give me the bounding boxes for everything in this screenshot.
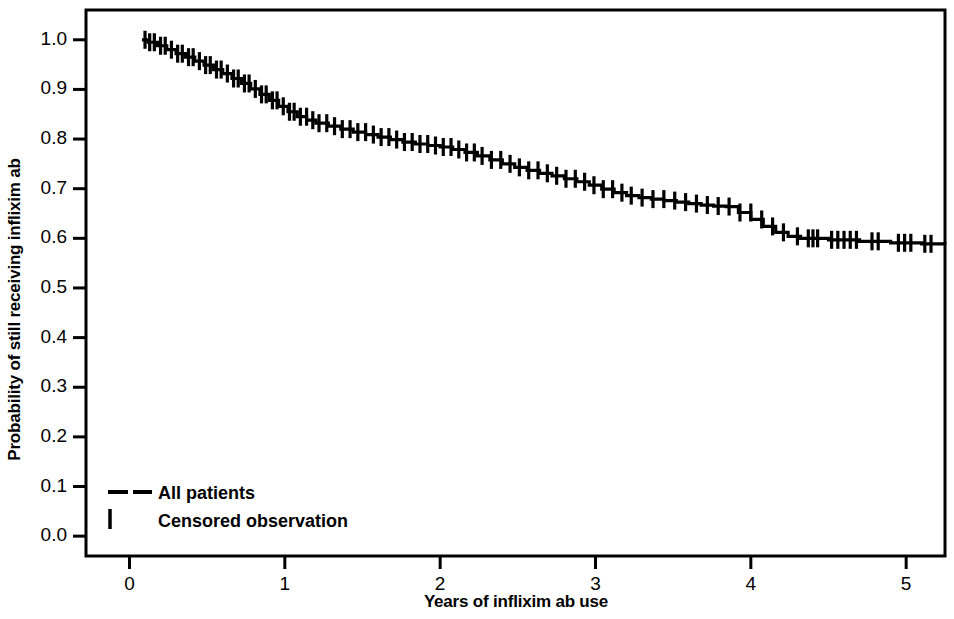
x-axis-ticks [129,556,906,569]
x-axis-title: Years of inflixim ab use [86,592,946,612]
y-tick-label-1: 0.1 [17,475,67,497]
x-tick-label-5: 5 [886,573,926,595]
y-tick-label-5: 0.5 [17,276,67,298]
x-tick-label-3: 3 [575,573,615,595]
y-axis-ticks [73,40,86,536]
y-tick-label-2: 0.2 [17,425,67,447]
plot-frame [86,10,945,556]
y-tick-label-6: 0.6 [17,226,67,248]
plot-canvas [0,0,954,619]
legend-label-censored-observation: Censored observation [158,511,348,532]
y-tick-label-7: 0.7 [17,177,67,199]
y-tick-label-8: 0.8 [17,127,67,149]
y-tick-label-0: 0.0 [17,524,67,546]
survival-curve-figure: Probability of still receiving inflixim … [0,0,954,619]
y-tick-label-9: 0.9 [17,77,67,99]
legend-label-all-patients: All patients [158,483,255,504]
x-tick-label-2: 2 [420,573,460,595]
y-tick-label-3: 0.3 [17,375,67,397]
x-tick-label-0: 0 [109,573,149,595]
x-tick-label-4: 4 [731,573,771,595]
x-tick-label-1: 1 [265,573,305,595]
y-tick-label-4: 0.4 [17,326,67,348]
y-tick-label-10: 1.0 [17,28,67,50]
